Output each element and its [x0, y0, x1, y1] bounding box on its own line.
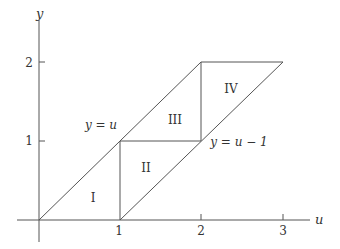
region-label-IV: IV — [224, 82, 238, 96]
region-label-I: I — [91, 191, 96, 205]
x-tick-label-3: 3 — [279, 224, 287, 238]
y-tick-label-2: 2 — [25, 56, 33, 70]
label-y-equals-u: y = u — [84, 118, 117, 132]
region-label-II: II — [141, 161, 151, 175]
x-tick-label-2: 2 — [197, 224, 205, 238]
label-y-equals-u-minus-1: y = u − 1 — [209, 135, 268, 149]
y-axis-label: y — [35, 6, 44, 21]
x-tick-label-1: 1 — [115, 224, 123, 238]
x-axis-label: u — [315, 212, 323, 227]
y-tick-label-1: 1 — [25, 134, 33, 148]
region-label-III: III — [168, 113, 182, 127]
diagram-canvas: y u 1 2 1 2 3 y = u y = u − 1 I II III I… — [0, 0, 340, 249]
